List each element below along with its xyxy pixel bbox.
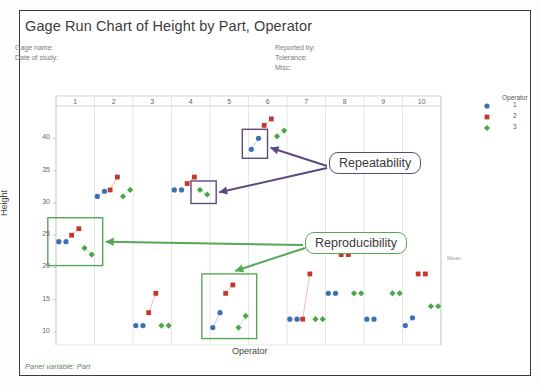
panel-label-10: 10 [412, 98, 432, 105]
panel-label-1: 1 [65, 98, 85, 105]
chart-screenshot: Gage Run Chart of Height by Part, Operat… [0, 0, 541, 386]
y-tick-15: 15 [32, 295, 50, 302]
y-tick-35: 35 [32, 166, 50, 173]
y-tick-10: 10 [32, 327, 50, 334]
y-tick-40: 40 [32, 133, 50, 140]
legend-label-1: 1 [513, 101, 517, 108]
panel-label-8: 8 [335, 98, 355, 105]
page-title: Gage Run Chart of Height by Part, Operat… [25, 18, 312, 34]
legend-label-3: 3 [513, 123, 517, 130]
reported-by-label: Reported by: [275, 43, 315, 53]
legend-label-2: 2 [513, 112, 517, 119]
panel-label-2: 2 [104, 98, 124, 105]
reproducibility-callout: Reproducibility [305, 232, 407, 254]
mean-label: Mean [447, 255, 461, 261]
panel-label-6: 6 [258, 98, 278, 105]
panel-label-3: 3 [142, 98, 162, 105]
y-tick-25: 25 [32, 230, 50, 237]
misc-label: Misc: [275, 63, 315, 73]
repeatability-callout: Repeatability [329, 152, 421, 174]
y-axis-title: Height [0, 190, 9, 216]
legend-title: Operator [502, 94, 528, 101]
panel-label-4: 4 [181, 98, 201, 105]
panel-label-9: 9 [373, 98, 393, 105]
tolerance-label: Tolerance: [275, 53, 315, 63]
date-of-study-label: Date of study: [15, 53, 58, 63]
header-right-fields: Reported by: Tolerance: Misc: [275, 43, 315, 73]
panel-label-5: 5 [219, 98, 239, 105]
y-tick-20: 20 [32, 262, 50, 269]
panel-label-7: 7 [296, 98, 316, 105]
x-axis-title: Operator [232, 346, 268, 356]
gage-name-label: Gage name: [15, 43, 58, 53]
header-left-fields: Gage name: Date of study: [15, 43, 58, 63]
panel-variable-footnote: Panel variable: Part [25, 362, 90, 371]
y-tick-30: 30 [32, 198, 50, 205]
